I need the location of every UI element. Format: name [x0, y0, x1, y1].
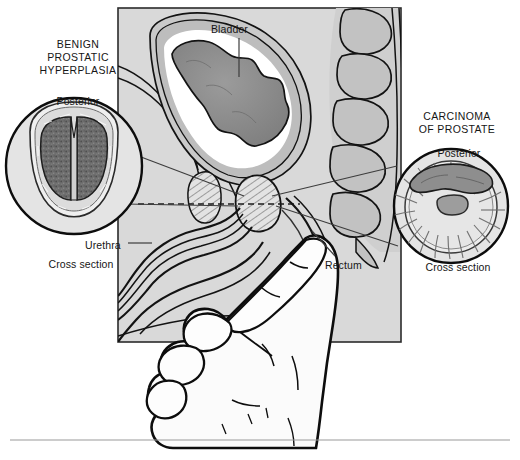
ring-finger-folded [159, 346, 205, 385]
bladder-label: Bladder [211, 23, 248, 36]
vertebra [337, 54, 391, 99]
bph-heading-line-1: BENIGN [26, 38, 130, 51]
bph-heading-line-3: HYPERPLASIA [26, 64, 130, 77]
carcinoma-inset [391, 149, 508, 263]
little-finger-folded [147, 381, 187, 419]
pubic-bone [188, 172, 221, 223]
bph-heading-line-2: PROSTATIC [26, 51, 130, 64]
rectum-label: Rectum [325, 259, 362, 272]
carcinoma-heading-line-2: OF PROSTATE [404, 123, 510, 136]
urethra-label: Urethra [85, 239, 121, 252]
ca-central-urethra [437, 195, 468, 215]
carcinoma-posterior-label: Posterior [419, 147, 499, 160]
bph-posterior-label: Posterior [35, 95, 121, 108]
bph-cross-section-caption: Cross section [35, 258, 127, 271]
sacrum-vertebrae [329, 8, 402, 268]
carcinoma-heading-line-1: CARCINOMA [404, 110, 510, 123]
carcinoma-heading: CARCINOMA OF PROSTATE [404, 110, 510, 136]
bph-inset [6, 98, 142, 234]
bph-heading: BENIGN PROSTATIC HYPERPLASIA [26, 38, 130, 76]
carcinoma-cross-section-caption: Cross section [406, 261, 510, 274]
